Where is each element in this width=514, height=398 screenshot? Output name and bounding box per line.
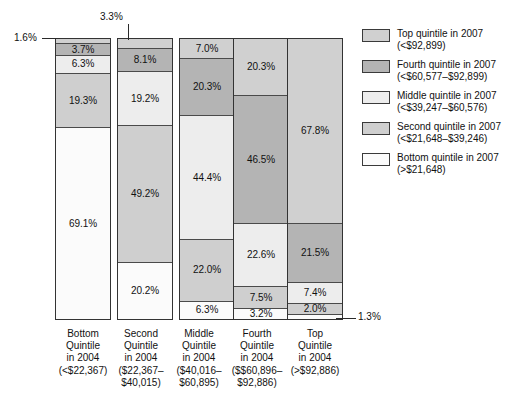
segment-value-label: 22.0% bbox=[193, 265, 221, 275]
legend-swatch-icon bbox=[362, 91, 390, 104]
bar-segment-fourth-quintile-2004-q4[interactable]: 46.5% bbox=[234, 96, 288, 225]
chart-root: 1.6%3.7%6.3%19.3%69.1%3.3%8.1%19.2%49.2%… bbox=[0, 0, 514, 398]
segment-value-label: 19.3% bbox=[69, 96, 97, 106]
bar-segment-fourth-quintile-2004-q1[interactable]: 3.2% bbox=[234, 309, 288, 319]
legend-label-line1: Middle quintile in 2007 bbox=[397, 90, 497, 102]
segment-value-label: 7.4% bbox=[304, 288, 326, 298]
stacked-bar-middle-quintile-2004[interactable]: 7.0%20.3%44.4%22.0%6.3% bbox=[179, 38, 235, 320]
category-label-line: (>$92,886) bbox=[277, 365, 353, 377]
segment-value-label: 44.4% bbox=[193, 173, 221, 183]
bar-segment-bottom-quintile-2004-q3[interactable]: 6.3% bbox=[56, 56, 110, 74]
segment-value-label: 6.3% bbox=[72, 59, 94, 69]
bar-segment-second-quintile-2004-q1[interactable]: 20.2% bbox=[118, 263, 172, 319]
legend-label-line2: (>$21,648) bbox=[397, 164, 499, 176]
stacked-bar-second-quintile-2004[interactable]: 3.3%8.1%19.2%49.2%20.2% bbox=[117, 38, 173, 320]
segment-value-label: 3.2% bbox=[250, 309, 272, 319]
category-label-line: Quintile bbox=[277, 340, 353, 352]
plot-area: 1.6%3.7%6.3%19.3%69.1%3.3%8.1%19.2%49.2%… bbox=[0, 0, 355, 398]
legend-label-line2: (<$21,648–$39,246) bbox=[397, 133, 501, 145]
segment-value-label: 22.6% bbox=[247, 250, 275, 260]
legend-label: Bottom quintile in 2007(>$21,648) bbox=[397, 152, 499, 176]
bar-segment-top-quintile-2004-q4[interactable]: 21.5% bbox=[288, 224, 342, 283]
bar-segment-fourth-quintile-2004-q2[interactable]: 7.5% bbox=[234, 287, 288, 309]
legend-item-q4[interactable]: Fourth quintile in 2007(<$60,577–$92,899… bbox=[362, 59, 512, 83]
category-label-line: Top bbox=[277, 328, 353, 340]
legend: Top quintile in 2007(<$92,899)Fourth qui… bbox=[362, 28, 512, 183]
bar-segment-middle-quintile-2004-q5[interactable]: 7.0% bbox=[180, 39, 234, 59]
bar-segment-top-quintile-2004-q1[interactable]: 1.3% bbox=[288, 315, 342, 319]
legend-label-line2: (<$60,577–$92,899) bbox=[397, 71, 496, 83]
bar-segment-middle-quintile-2004-q4[interactable]: 20.3% bbox=[180, 59, 234, 116]
bar-segment-bottom-quintile-2004-q1[interactable]: 69.1% bbox=[56, 128, 110, 319]
bar-segment-second-quintile-2004-q2[interactable]: 49.2% bbox=[118, 126, 172, 263]
bar-segment-fourth-quintile-2004-q3[interactable]: 22.6% bbox=[234, 224, 288, 287]
bar-segment-top-quintile-2004-q2[interactable]: 2.0% bbox=[288, 304, 342, 315]
legend-label: Middle quintile in 2007(<$39,247–$60,576… bbox=[397, 90, 497, 114]
legend-label-line1: Second quintile in 2007 bbox=[397, 121, 501, 133]
segment-value-label: 8.1% bbox=[134, 55, 156, 65]
category-label-top-quintile-2004: TopQuintilein 2004(>$92,886) bbox=[277, 328, 353, 377]
segment-value-label: 7.5% bbox=[250, 293, 272, 303]
callout-leader-bar1 bbox=[42, 38, 60, 39]
legend-item-q5[interactable]: Top quintile in 2007(<$92,899) bbox=[362, 28, 512, 52]
segment-value-label: 20.2% bbox=[131, 286, 159, 296]
segment-value-label: 67.8% bbox=[301, 126, 329, 136]
segment-value-label: 6.3% bbox=[196, 305, 218, 315]
legend-swatch-icon bbox=[362, 29, 390, 42]
bar-segment-fourth-quintile-2004-q5[interactable]: 20.3% bbox=[234, 39, 288, 96]
legend-label: Top quintile in 2007(<$92,899) bbox=[397, 28, 483, 52]
bar-segment-second-quintile-2004-q3[interactable]: 19.2% bbox=[118, 72, 172, 126]
bar-segment-bottom-quintile-2004-q2[interactable]: 19.3% bbox=[56, 74, 110, 128]
category-label-line: in 2004 bbox=[277, 352, 353, 364]
legend-label: Second quintile in 2007(<$21,648–$39,246… bbox=[397, 121, 501, 145]
segment-value-label: 2.0% bbox=[304, 304, 326, 314]
legend-label-line1: Bottom quintile in 2007 bbox=[397, 152, 499, 164]
legend-label-line1: Fourth quintile in 2007 bbox=[397, 59, 496, 71]
bar-segment-middle-quintile-2004-q1[interactable]: 6.3% bbox=[180, 302, 234, 319]
callout-bar1-top: 1.6% bbox=[14, 33, 37, 43]
stacked-bar-bottom-quintile-2004[interactable]: 1.6%3.7%6.3%19.3%69.1% bbox=[55, 38, 111, 320]
legend-label-line1: Top quintile in 2007 bbox=[397, 28, 483, 40]
segment-value-label: 49.2% bbox=[131, 189, 159, 199]
segment-value-label: 3.7% bbox=[72, 45, 94, 55]
stacked-bar-top-quintile-2004[interactable]: 67.8%21.5%7.4%2.0%1.3% bbox=[287, 38, 343, 320]
callout-leader-bar5 bbox=[336, 318, 356, 319]
callout-leader-bar2 bbox=[128, 24, 129, 40]
stacked-bar-fourth-quintile-2004[interactable]: 20.3%46.5%22.6%7.5%3.2% bbox=[233, 38, 289, 320]
segment-value-label: 46.5% bbox=[247, 155, 275, 165]
bar-segment-second-quintile-2004-q4[interactable]: 8.1% bbox=[118, 49, 172, 72]
legend-item-q3[interactable]: Middle quintile in 2007(<$39,247–$60,576… bbox=[362, 90, 512, 114]
legend-item-q2[interactable]: Second quintile in 2007(<$21,648–$39,246… bbox=[362, 121, 512, 145]
segment-value-label: 7.0% bbox=[196, 44, 218, 54]
legend-swatch-icon bbox=[362, 60, 390, 73]
bar-segment-second-quintile-2004-q5[interactable]: 3.3% bbox=[118, 39, 172, 49]
legend-swatch-icon bbox=[362, 153, 390, 166]
legend-label: Fourth quintile in 2007(<$60,577–$92,899… bbox=[397, 59, 496, 83]
legend-item-q1[interactable]: Bottom quintile in 2007(>$21,648) bbox=[362, 152, 512, 176]
bar-segment-bottom-quintile-2004-q4[interactable]: 3.7% bbox=[56, 44, 110, 55]
category-label-line: $92,886) bbox=[219, 377, 295, 389]
segment-value-label: 20.3% bbox=[247, 62, 275, 72]
bar-segment-middle-quintile-2004-q2[interactable]: 22.0% bbox=[180, 240, 234, 302]
callout-bar2-top: 3.3% bbox=[100, 12, 123, 22]
segment-value-label: 21.5% bbox=[301, 248, 329, 258]
bar-segment-middle-quintile-2004-q3[interactable]: 44.4% bbox=[180, 116, 234, 240]
segment-value-label: 19.2% bbox=[131, 94, 159, 104]
callout-bar5-bottom: 1.3% bbox=[358, 312, 381, 322]
bar-segment-top-quintile-2004-q5[interactable]: 67.8% bbox=[288, 39, 342, 224]
legend-swatch-icon bbox=[362, 122, 390, 135]
segment-value-label: 20.3% bbox=[193, 82, 221, 92]
legend-label-line2: (<$92,899) bbox=[397, 40, 483, 52]
legend-label-line2: (<$39,247–$60,576) bbox=[397, 102, 497, 114]
segment-value-label: 69.1% bbox=[69, 219, 97, 229]
bar-segment-top-quintile-2004-q3[interactable]: 7.4% bbox=[288, 283, 342, 304]
